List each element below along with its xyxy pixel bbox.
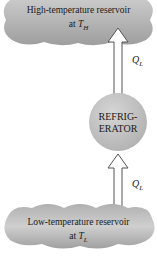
upper-heat-label: QL <box>132 54 143 68</box>
low-temperature-reservoir: Low-temperature reservoir at TL <box>0 202 157 252</box>
bottom-reservoir-title: Low-temperature reservoir <box>0 216 157 228</box>
refrigerator-device: REFRIG- ERATOR <box>89 93 147 151</box>
device-label: REFRIG- ERATOR <box>89 111 147 135</box>
upper-arrow-icon <box>108 28 128 95</box>
bottom-reservoir-temp: at TL <box>0 230 157 246</box>
lower-heat-label: QL <box>132 178 143 192</box>
